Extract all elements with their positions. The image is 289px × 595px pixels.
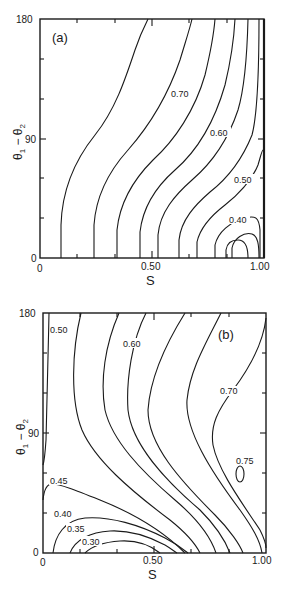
contour-label-070-a: 0.70 <box>171 89 189 99</box>
x-axis-label-a: S <box>146 273 155 288</box>
x-tick-100-b: 1.00 <box>252 555 272 566</box>
contours-b <box>43 313 266 553</box>
y-tick-90-a: 90 <box>25 134 37 145</box>
panel-b: 0.50 0.60 0.70 0.75 0.45 0.40 0.35 0.30 … <box>14 308 272 582</box>
panel-label-b: (b) <box>218 327 234 342</box>
panel-label-a: (a) <box>52 30 68 45</box>
contour-labels-b: 0.50 0.60 0.70 0.75 0.45 0.40 0.35 0.30 <box>49 324 254 547</box>
y-tick-180-a: 180 <box>16 14 33 25</box>
x-tick-050-b: 0.50 <box>143 555 163 566</box>
contour-label-050-b: 0.50 <box>50 325 68 335</box>
y-tick-180-b: 180 <box>19 308 36 319</box>
x-axis-label-b: S <box>148 567 157 582</box>
contour-label-035-b: 0.35 <box>67 524 85 534</box>
x-tick-100-a: 1.00 <box>250 261 270 272</box>
contour-label-040-a: 0.40 <box>229 215 247 225</box>
contour-label-060-a: 0.60 <box>210 128 228 138</box>
contour-label-030-b: 0.30 <box>82 537 100 547</box>
contour-labels-a: 0.70 0.60 0.50 0.40 <box>170 88 255 225</box>
panel-a: 0.70 0.60 0.50 0.40 (a) 180 90 0 0 0.50 … <box>11 14 270 288</box>
x-tick-0-b: 0 <box>40 557 46 568</box>
contour-label-045-b: 0.45 <box>50 476 68 486</box>
y-axis-label-a: θ1 − θ2 <box>11 124 27 161</box>
y-axis-label-b: θ1 − θ2 <box>14 419 30 456</box>
y-tick-90-b: 90 <box>28 428 40 439</box>
contour-label-075-b: 0.75 <box>236 456 254 466</box>
contour-label-070-b: 0.70 <box>220 386 238 396</box>
plot-frame-b <box>43 313 266 553</box>
x-ticks-a <box>77 19 227 258</box>
x-tick-0-a: 0 <box>37 263 43 274</box>
contour-label-040-b: 0.40 <box>54 509 72 519</box>
contour-label-060-b: 0.60 <box>123 339 141 349</box>
y-ticks-a <box>40 59 264 218</box>
figure: 0.70 0.60 0.50 0.40 (a) 180 90 0 0 0.50 … <box>0 0 289 595</box>
contour-label-050-a: 0.50 <box>234 175 252 185</box>
x-tick-050-a: 0.50 <box>141 261 161 272</box>
y-tick-0-b: 0 <box>33 547 39 558</box>
